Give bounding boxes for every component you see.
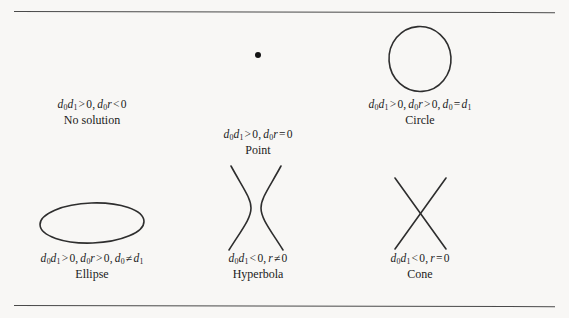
var-d0-b: d0 [80,252,90,264]
relation-1: > [243,128,252,140]
formula-ellipse: d0d1>0,d0r>0,d0≠d1 [0,252,187,267]
top-horizontal-rule [14,11,555,13]
var-d1: d1 [67,98,77,110]
relation-1: > [77,98,86,110]
formula-no-solution: d0d1>0,d0r<0 [0,98,187,113]
caption-ellipse: d0d1>0,d0r>0,d0≠d1 Ellipse [0,252,187,281]
art-no-solution [0,22,187,98]
art-cone [325,164,515,252]
caption-cone: d0d1<0,r=0 Cone [325,252,515,281]
var-d1: d1 [51,252,61,264]
figure-container: d0d1>0,d0r<0 No solution d0d1>0,d0r=0 Po… [0,0,569,318]
value-2: 0 [287,128,293,140]
var-d0: d0 [229,252,239,264]
value-2: 0 [121,98,127,110]
label-point: Point [163,144,353,157]
value-2: 0 [104,252,110,264]
relation-1: < [410,252,419,264]
label-no-solution: No solution [0,114,187,127]
panel-ellipse: d0d1>0,d0r>0,d0≠d1 Ellipse [0,164,187,281]
relation-2: = [278,128,287,140]
var-d0: d0 [369,98,379,110]
var-d0-b: d0 [408,98,418,110]
var-d1-b: d1 [462,98,472,110]
relation-2: < [112,98,121,110]
var-d0: d0 [57,98,67,110]
panel-circle: d0d1>0,d0r>0,d0=d1 Circle [325,22,515,127]
value-2: 0 [282,252,288,264]
relation-2: > [95,252,104,264]
art-circle [325,22,515,98]
bottom-horizontal-rule [14,305,555,307]
relation-3: = [453,98,462,110]
caption-point: d0d1>0,d0r=0 Point [163,128,353,157]
var-d1: d1 [238,252,248,264]
cone-icon [325,164,515,252]
var-d1: d1 [378,98,388,110]
circle-icon [325,22,515,98]
var-d0: d0 [390,252,400,264]
var-d1: d1 [400,252,410,264]
caption-circle: d0d1>0,d0r>0,d0=d1 Circle [325,98,515,127]
caption-no-solution: d0d1>0,d0r<0 No solution [0,98,187,127]
point-dot-icon [255,52,261,58]
formula-cone: d0d1<0,r=0 [325,252,515,267]
label-ellipse: Ellipse [0,268,187,281]
panel-no-solution: d0d1>0,d0r<0 No solution [0,22,187,127]
relation-2: = [435,252,444,264]
var-d1-b: d1 [133,252,143,264]
ellipse-icon [0,164,187,252]
relation-2: > [423,98,432,110]
var-d0-b: d0 [263,128,273,140]
relation-2: ≠ [273,252,282,264]
var-d0-c: d0 [443,98,453,110]
var-d0-c: d0 [115,252,125,264]
formula-circle: d0d1>0,d0r>0,d0=d1 [325,98,515,113]
var-d1: d1 [233,128,243,140]
panel-cone: d0d1<0,r=0 Cone [325,164,515,281]
label-circle: Circle [325,114,515,127]
art-ellipse [0,164,187,252]
value-2: 0 [444,252,450,264]
label-cone: Cone [325,268,515,281]
formula-point: d0d1>0,d0r=0 [163,128,353,143]
value-2: 0 [432,98,438,110]
var-d0: d0 [223,128,233,140]
var-d0: d0 [41,252,51,264]
var-d0-b: d0 [97,98,107,110]
